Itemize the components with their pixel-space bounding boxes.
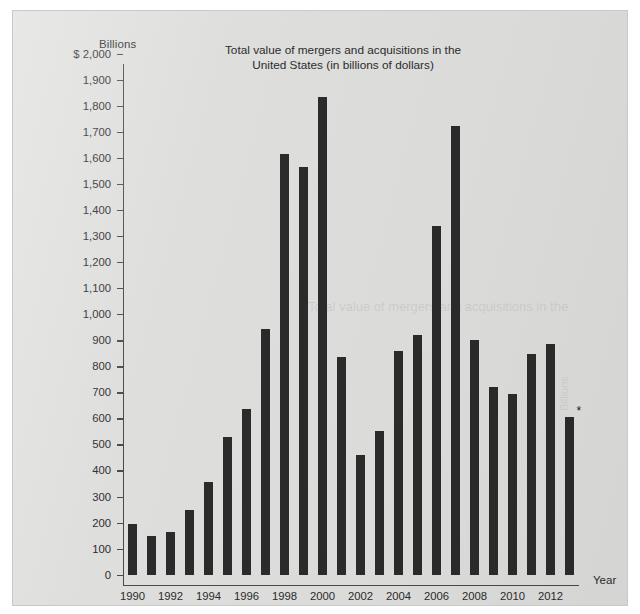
bar-2012: [546, 344, 556, 574]
bar-2004: [394, 351, 404, 575]
y-tick-mark: [117, 236, 123, 237]
bar-1992: [166, 532, 176, 575]
bar-2009: [489, 387, 499, 575]
x-tick-label-2010: 2010: [500, 590, 525, 602]
y-tick-mark: [117, 549, 123, 550]
bar-2008: [470, 340, 480, 575]
y-tick-label: 600: [49, 412, 111, 424]
x-tick-label-2012: 2012: [538, 590, 563, 602]
bar-1994: [204, 482, 214, 574]
y-axis-line: [123, 64, 124, 586]
x-tick-label-1996: 1996: [234, 590, 259, 602]
bar-2007: [451, 126, 461, 575]
y-tick-mark: [117, 444, 123, 445]
y-tick-mark: [117, 288, 123, 289]
bar-2011: [527, 354, 537, 575]
y-tick-label: 1,700: [49, 126, 111, 138]
x-tick-label-2008: 2008: [462, 590, 487, 602]
y-tick-label: 1,900: [49, 74, 111, 86]
y-tick-label: 1,300: [49, 230, 111, 242]
y-tick-mark: [117, 366, 123, 367]
y-tick-mark: [117, 106, 123, 107]
bar-1991: [147, 536, 157, 575]
bar-2006: [432, 226, 442, 575]
x-tick-label-2004: 2004: [386, 590, 411, 602]
x-tick-label-1994: 1994: [196, 590, 221, 602]
x-tick-label-2002: 2002: [348, 590, 373, 602]
y-tick-label: 300: [49, 491, 111, 503]
y-tick-label: 1,400: [49, 204, 111, 216]
x-tick-label-2006: 2006: [424, 590, 449, 602]
y-tick-mark: [117, 132, 123, 133]
y-tick-mark: [117, 340, 123, 341]
bar-2001: [337, 357, 347, 574]
y-tick-label: 1,600: [49, 152, 111, 164]
y-tick-mark: [117, 523, 123, 524]
y-tick-mark: [117, 210, 123, 211]
bar-1997: [261, 329, 271, 575]
y-tick-label: 900: [49, 334, 111, 346]
x-tick-label-1990: 1990: [120, 590, 145, 602]
y-tick-label: 0: [49, 569, 111, 581]
bar-2003: [375, 431, 385, 575]
y-tick-label: 400: [49, 464, 111, 476]
y-tick-label: 200: [49, 517, 111, 529]
y-tick-label: 1,100: [49, 282, 111, 294]
plot-area: $ 2,0001,9001,8001,7001,6001,5001,4001,3…: [13, 11, 629, 607]
y-tick-mark: [117, 54, 123, 55]
y-tick-mark: [117, 470, 123, 471]
y-tick-label: $ 2,000: [49, 48, 111, 60]
y-tick-label: 800: [49, 360, 111, 372]
y-tick-mark: [117, 184, 123, 185]
y-tick-label: 1,500: [49, 178, 111, 190]
y-tick-mark: [117, 80, 123, 81]
bar-2010: [508, 394, 518, 575]
bar-1996: [242, 409, 252, 575]
y-tick-mark: [117, 158, 123, 159]
y-tick-mark: [117, 262, 123, 263]
x-axis-line: [123, 585, 579, 586]
bar-annotation-2013: *: [577, 405, 582, 417]
x-tick-label-1998: 1998: [272, 590, 297, 602]
y-tick-label: 500: [49, 438, 111, 450]
y-tick-mark: [117, 418, 123, 419]
bar-1998: [280, 154, 290, 575]
x-tick-label-2000: 2000: [310, 590, 335, 602]
bar-1999: [299, 167, 309, 575]
bar-1990: [128, 524, 138, 575]
y-tick-mark: [117, 497, 123, 498]
y-tick-label: 1,200: [49, 256, 111, 268]
y-tick-label: 1,000: [49, 308, 111, 320]
bar-2013: [565, 417, 575, 574]
y-tick-label: 700: [49, 386, 111, 398]
bar-2005: [413, 335, 423, 574]
bar-1993: [185, 510, 195, 575]
y-tick-mark: [117, 392, 123, 393]
y-tick-mark: [117, 575, 123, 576]
bar-2002: [356, 455, 366, 574]
y-tick-label: 100: [49, 543, 111, 555]
x-tick-label-1992: 1992: [158, 590, 183, 602]
bar-2000: [318, 97, 328, 575]
chart-plate: Total value of mergers and acquisitions …: [12, 10, 628, 606]
figure-canvas: Total value of mergers and acquisitions …: [0, 0, 640, 614]
y-tick-label: 1,800: [49, 100, 111, 112]
y-tick-mark: [117, 314, 123, 315]
bar-1995: [223, 437, 233, 574]
